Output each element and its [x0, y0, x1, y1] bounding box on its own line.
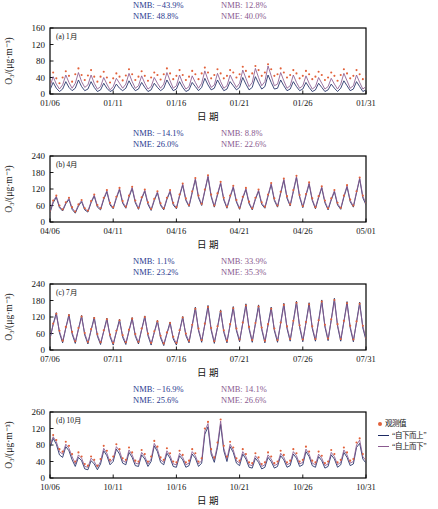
observed-point: [96, 465, 98, 467]
observed-point: [137, 460, 139, 462]
observed-point: [87, 209, 89, 211]
observed-point: [194, 452, 196, 454]
observed-point: [220, 181, 222, 183]
observed-point: [314, 206, 316, 208]
observed-point: [77, 203, 79, 205]
observed-point: [324, 79, 326, 81]
observed-point: [292, 320, 294, 322]
observed-point: [251, 462, 253, 464]
observed-point: [93, 317, 95, 319]
observed-point: [65, 326, 67, 328]
observed-point: [276, 460, 278, 462]
y-tick-label: 260: [32, 408, 46, 417]
observed-point: [318, 195, 320, 197]
observed-point: [112, 206, 114, 208]
observed-point: [172, 336, 174, 338]
observed-point: [166, 197, 168, 199]
observed-point: [201, 203, 203, 205]
observed-point: [182, 182, 184, 184]
x-tick-label: 10/31: [356, 482, 376, 492]
observed-point: [71, 206, 73, 208]
observed-point: [156, 74, 158, 76]
observed-point: [84, 463, 86, 465]
observed-point: [191, 70, 193, 72]
observed-point: [289, 74, 291, 76]
observed-point: [226, 340, 228, 342]
observed-point: [251, 72, 253, 74]
observed-point: [245, 304, 247, 306]
observed-point: [125, 74, 127, 76]
nmb-bottom-up-d: NMB: −16.9%: [133, 384, 221, 395]
observed-point: [163, 342, 165, 344]
observed-point: [160, 202, 162, 204]
observed-point: [128, 195, 130, 197]
observed-point: [276, 73, 278, 75]
x-tick-label: 07/06: [40, 354, 60, 364]
observed-point: [220, 310, 222, 312]
observed-point: [172, 78, 174, 80]
observed-point: [134, 200, 136, 202]
observed-point: [223, 77, 225, 79]
x-axis-title: 日 期: [197, 368, 219, 378]
x-tick-label: 07/31: [356, 354, 376, 364]
observed-point: [160, 456, 162, 458]
observed-point: [286, 325, 288, 327]
observed-point: [137, 76, 139, 78]
series-line-bottom_up: [50, 177, 366, 213]
observed-point: [81, 199, 83, 201]
observed-point: [112, 77, 114, 79]
observed-point: [330, 449, 332, 451]
observed-point: [87, 465, 89, 467]
observed-point: [352, 204, 354, 206]
observed-point: [346, 184, 348, 186]
observed-point: [144, 316, 146, 318]
observed-point: [232, 446, 234, 448]
observed-point: [299, 460, 301, 462]
observed-point: [242, 321, 244, 323]
observed-point: [289, 203, 291, 205]
observed-point: [150, 208, 152, 210]
observed-point: [84, 207, 86, 209]
observed-point: [299, 324, 301, 326]
observed-point: [330, 197, 332, 199]
observed-point: [258, 456, 260, 458]
observed-point: [362, 325, 364, 327]
y-tick-label: 60: [36, 329, 46, 339]
observed-point: [289, 460, 291, 462]
observed-point: [299, 194, 301, 196]
y-tick-label: 180: [32, 296, 46, 306]
observed-point: [141, 196, 143, 198]
observed-point: [216, 68, 218, 70]
observed-point: [175, 342, 177, 344]
observed-point: [302, 75, 304, 77]
observed-point: [359, 176, 361, 178]
observed-point: [118, 76, 120, 78]
legend: 观测值 “自下而上” “自上而下”: [378, 418, 427, 453]
x-tick-label: 01/31: [356, 98, 376, 108]
observed-point: [125, 459, 127, 461]
observed-point: [210, 448, 212, 450]
observed-point: [352, 339, 354, 341]
observed-point: [207, 174, 209, 176]
nme-top-down-c: NME: 35.3%: [221, 267, 305, 278]
observed-point: [112, 342, 114, 344]
observed-point: [330, 318, 332, 320]
observed-point: [115, 330, 117, 332]
observed-point: [280, 450, 282, 452]
observed-point: [213, 74, 215, 76]
observed-point: [153, 72, 155, 74]
x-tick-label: 01/26: [293, 98, 313, 108]
observed-point: [100, 341, 102, 343]
observed-point: [115, 72, 117, 74]
observed-point: [52, 434, 54, 436]
observed-point: [52, 200, 54, 202]
observed-point: [327, 207, 329, 209]
observed-point: [242, 448, 244, 450]
observed-point: [90, 69, 92, 71]
observed-point: [220, 72, 222, 74]
y-tick-label: 120: [32, 184, 46, 194]
observed-point: [77, 327, 79, 329]
observed-point: [248, 326, 250, 328]
observed-point: [131, 73, 133, 75]
y-tick-label: 120: [32, 40, 46, 50]
